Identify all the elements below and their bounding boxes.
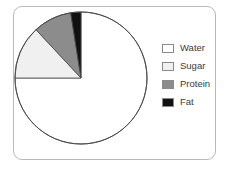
- legend-label-protein: Protein: [180, 79, 210, 89]
- legend-item-fat[interactable]: Fat: [162, 93, 222, 111]
- legend-label-water: Water: [180, 43, 205, 53]
- chart-frame: Water Sugar Protein Fat: [13, 6, 216, 160]
- legend-swatch-protein: [162, 80, 174, 89]
- pie-chart-area: [14, 7, 166, 161]
- legend-swatch-fat: [162, 98, 174, 107]
- legend-item-sugar[interactable]: Sugar: [162, 57, 222, 75]
- legend-label-sugar: Sugar: [180, 61, 205, 71]
- pie-slice-group: [15, 12, 147, 144]
- legend-label-fat: Fat: [180, 97, 194, 107]
- legend-item-water[interactable]: Water: [162, 39, 222, 57]
- legend-item-protein[interactable]: Protein: [162, 75, 222, 93]
- chart-legend: Water Sugar Protein Fat: [162, 39, 222, 111]
- legend-swatch-sugar: [162, 62, 174, 71]
- legend-swatch-water: [162, 44, 174, 53]
- pie-chart-svg: [14, 7, 166, 161]
